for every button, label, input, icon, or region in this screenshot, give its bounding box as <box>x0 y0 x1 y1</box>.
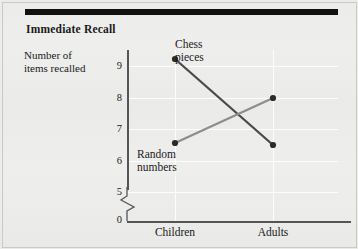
x-axis-line <box>127 221 351 223</box>
x-tick-label-adults: Adults <box>233 226 313 238</box>
y-axis-line <box>127 50 129 190</box>
series-label-random-numbers-line-1: Random <box>137 148 177 161</box>
series-label-random-numbers-line-2: numbers <box>137 161 177 174</box>
y-axis-title: Number of items recalled <box>24 49 85 75</box>
y-axis-title-line-2: items recalled <box>24 62 85 75</box>
gridline-y-8 <box>127 98 338 99</box>
gridline-x-adults <box>273 50 274 222</box>
title-rule-bar <box>25 9 338 15</box>
y-tick-label-6: 6 <box>108 155 122 166</box>
y-axis-title-line-1: Number of <box>24 49 85 62</box>
x-tick-label-children: Children <box>135 226 215 238</box>
y-tick-label-0: 0 <box>108 214 122 225</box>
series-label-random-numbers: Random numbers <box>137 148 177 174</box>
plot-area <box>127 50 338 222</box>
chart-title: Immediate Recall <box>26 23 116 35</box>
gridline-y-5 <box>127 192 338 193</box>
gridline-y-7 <box>127 129 338 130</box>
y-tick-label-7: 7 <box>108 123 122 134</box>
y-tick-label-5: 5 <box>108 186 122 197</box>
y-tick-label-9: 9 <box>108 60 122 71</box>
figure-panel: Immediate Recall Number of items recalle… <box>0 0 358 249</box>
series-label-chess-pieces-line-2: pieces <box>175 51 204 64</box>
y-tick-label-8: 8 <box>108 92 122 103</box>
series-label-chess-pieces-line-1: Chess <box>175 38 204 51</box>
series-label-chess-pieces: Chess pieces <box>175 38 204 64</box>
gridline-y-9 <box>127 66 338 67</box>
gridline-x-children <box>175 50 176 222</box>
